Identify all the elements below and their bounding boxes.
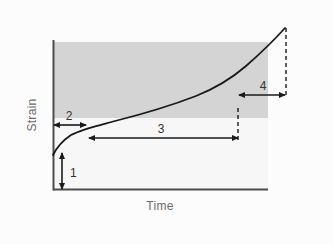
annotation-4-label: 4 [260, 79, 267, 93]
annotation-1-label: 1 [70, 166, 77, 180]
creep-curve-figure: 1 2 3 4 Strain Time [0, 0, 333, 244]
creep-curve-chart: 1 2 3 4 Strain Time [0, 0, 333, 244]
annotation-3-label: 3 [158, 122, 165, 136]
annotation-2-label: 2 [66, 109, 73, 123]
x-axis-label: Time [146, 199, 173, 213]
y-axis-label: Strain [25, 98, 39, 131]
